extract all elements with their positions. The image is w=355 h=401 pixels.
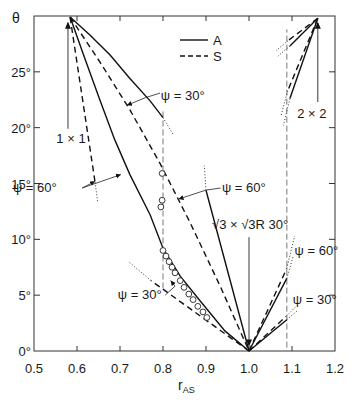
open-circle-marker [166, 259, 172, 265]
axis-ticks [34, 16, 335, 351]
annotation-psi30-top: ψ = 30° [161, 88, 205, 103]
x-tick-label: 1.1 [283, 361, 301, 376]
open-circle-marker [204, 315, 210, 321]
angle-leader-line [179, 188, 221, 199]
annotation-leaders [82, 93, 220, 295]
curve-a [249, 320, 287, 351]
y-tick-label: 20° [11, 121, 31, 136]
open-circle-marker [158, 204, 164, 210]
annotation-sqrt3: √3 × √3R 30° [212, 217, 288, 232]
curve-dotted-extension [276, 41, 288, 51]
curve-a [249, 278, 287, 351]
chart: 0.50.60.70.80.91.01.11.20°5°10°15°20°25°… [0, 0, 355, 401]
x-tick-label: 0.6 [68, 361, 86, 376]
y-tick-label: 10° [11, 232, 31, 247]
open-circle-marker [172, 270, 178, 276]
y-tick-label: 0° [19, 344, 31, 359]
curve-s [70, 17, 95, 182]
open-circle-marker [200, 309, 206, 315]
x-axis-label: rAS [178, 377, 195, 395]
annotation-1x1: 1 × 1 [56, 131, 85, 146]
curve-dotted-extension [163, 118, 174, 136]
x-tick-label: 1.2 [326, 361, 344, 376]
axis-tick-labels: 0.50.60.70.80.91.01.11.20°5°10°15°20°25° [11, 65, 344, 376]
legend: A S [180, 33, 222, 64]
x-tick-label: 0.7 [111, 361, 129, 376]
annotation-psi60-mid: ψ = 60° [222, 180, 266, 195]
open-circle-marker [159, 197, 165, 203]
y-axis-label: θ [12, 10, 20, 26]
x-tick-label: 0.8 [154, 361, 172, 376]
curve-dotted-extension [286, 306, 296, 316]
open-circle-marker [169, 264, 175, 270]
legend-label-s: S [213, 49, 222, 64]
open-circle-marker [190, 297, 196, 303]
angle-leader-line [165, 281, 175, 296]
x-tick-label: 0.9 [197, 361, 215, 376]
annotation-psi60-right: ψ = 60° [295, 243, 339, 258]
angle-leader-line [82, 175, 121, 188]
open-circle-marker [181, 284, 187, 290]
open-circle-marker [195, 303, 201, 309]
open-circle-marker [186, 291, 192, 297]
open-circle-marker [160, 248, 166, 254]
annotation-psi30-right: ψ = 30° [293, 292, 337, 307]
annotation-2x2: 2 × 2 [297, 106, 326, 121]
curve-a [70, 17, 163, 118]
curve-a [290, 18, 318, 98]
annotation-psi30-low: ψ = 30° [118, 287, 162, 302]
annotation-psi60-left: ψ = 60° [13, 180, 57, 195]
y-tick-label: 25° [11, 65, 31, 80]
x-tick-label: 0.5 [25, 361, 43, 376]
plot-frame [34, 16, 335, 351]
curve-dotted-extension [278, 46, 290, 56]
open-circle-marker [177, 278, 183, 284]
curve-dotted-extension [204, 166, 206, 191]
curve-dotted-extension [95, 182, 98, 201]
curve-dotted-extension [129, 262, 151, 281]
y-tick-label: 5° [19, 288, 31, 303]
legend-label-a: A [213, 33, 222, 48]
data-markers [158, 171, 210, 321]
curve-dotted-extension [287, 311, 297, 320]
curve-s [288, 18, 318, 91]
angle-leader-line [127, 93, 160, 105]
open-circle-marker [159, 171, 165, 177]
open-circle-marker [163, 253, 169, 259]
curve-s [151, 281, 249, 351]
curve-dotted-extension [287, 257, 293, 278]
x-tick-label: 1.0 [240, 361, 258, 376]
x-axis-label-sub: AS [183, 385, 195, 395]
